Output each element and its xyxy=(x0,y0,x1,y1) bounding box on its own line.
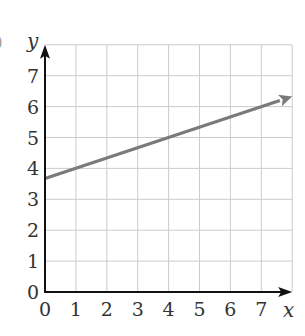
x-tick-label: 3 xyxy=(132,298,144,320)
y-tick-label: 7 xyxy=(27,65,39,87)
x-tick-label: 5 xyxy=(193,298,205,320)
x-axis-tick-labels: 01234567 xyxy=(39,298,267,320)
series-line xyxy=(45,101,280,179)
y-tick-label: 3 xyxy=(27,188,39,210)
y-tick-label: 0 xyxy=(27,281,39,303)
line-chart: 01234567 01234567 x y xyxy=(0,0,305,336)
y-tick-label: 4 xyxy=(27,157,39,179)
x-axis-label: x xyxy=(283,298,294,322)
x-tick-label: 7 xyxy=(255,298,267,320)
y-tick-label: 6 xyxy=(27,96,39,118)
x-tick-label: 0 xyxy=(39,298,51,320)
series-arrowhead-icon xyxy=(278,95,292,106)
x-tick-label: 6 xyxy=(224,298,236,320)
y-tick-label: 1 xyxy=(27,250,39,272)
y-axis-label: y xyxy=(26,29,39,53)
x-tick-label: 1 xyxy=(70,298,82,320)
x-tick-label: 4 xyxy=(163,298,175,320)
grid-lines xyxy=(45,45,292,292)
axes xyxy=(40,45,292,297)
y-tick-label: 2 xyxy=(27,219,39,241)
y-axis-tick-labels: 01234567 xyxy=(27,65,39,303)
x-tick-label: 2 xyxy=(101,298,113,320)
y-tick-label: 5 xyxy=(27,127,39,149)
